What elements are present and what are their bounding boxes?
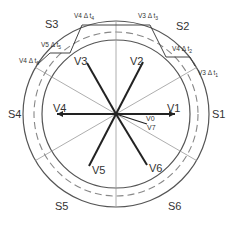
label-v1: V1 (167, 102, 180, 114)
label-v4-dt4: V4 Δ t4 (74, 12, 94, 21)
label-v4-dt6: V4 Δ t6 (19, 57, 39, 66)
label-s4: S4 (8, 108, 21, 120)
label-s2: S2 (176, 20, 189, 32)
label-v7: V7 (147, 124, 156, 131)
label-v4-dt2: V4 Δ t2 (172, 45, 192, 54)
label-v2: V2 (130, 55, 143, 67)
label-v5-dt5: V5 Δ t5 (41, 41, 61, 50)
label-v6: V6 (149, 162, 162, 174)
label-v0: V0 (146, 115, 155, 122)
label-v4: V4 (53, 102, 66, 114)
label-v3: V3 (74, 55, 87, 67)
label-s6: S6 (168, 200, 181, 212)
label-v3-dt3: V3 Δ t3 (138, 12, 158, 21)
label-s1: S1 (212, 108, 225, 120)
vector-v3 (87, 63, 116, 114)
vector-v6 (116, 114, 147, 165)
label-s5: S5 (55, 200, 68, 212)
svpwm-diagram: S1 S2 S3 S4 S5 S6 V1 V2 V3 V4 V5 V6 V0 V… (0, 0, 231, 227)
label-v5: V5 (92, 164, 105, 176)
label-s3: S3 (45, 18, 58, 30)
